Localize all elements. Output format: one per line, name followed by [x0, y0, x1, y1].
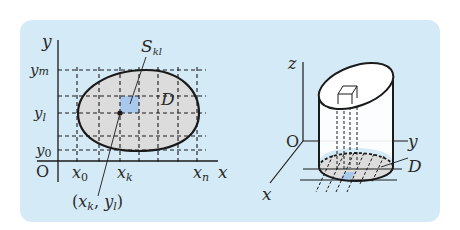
tick-label-ym: ym: [29, 61, 49, 79]
origin-label: O: [36, 162, 49, 181]
tick-label-xn: xn: [193, 163, 209, 184]
tick-label-y0: y0: [35, 141, 51, 160]
x-axis-label: x: [218, 162, 228, 182]
region-d-label-3d: D: [407, 156, 422, 176]
tick-label-x0: x0: [72, 163, 88, 184]
cell-skl: [120, 96, 139, 113]
right-diagram: z O y x D: [262, 54, 422, 204]
tick-label-yl: yl: [33, 104, 46, 124]
y-axis-label-3d: y: [407, 131, 418, 151]
point-label: (xk, yl): [72, 192, 123, 213]
region-d-label: D: [160, 89, 175, 109]
y-axis-label: y: [41, 31, 52, 51]
z-axis-label: z: [287, 54, 297, 73]
cell-skl-label: Skl: [141, 36, 162, 57]
diagram-canvas: y O ym yl y0 x0 xk xn x D Skl (xk, yl): [0, 0, 460, 230]
tick-label-xk: xk: [117, 163, 133, 184]
left-diagram: y O ym yl y0 x0 xk xn x D Skl (xk, yl): [29, 31, 228, 213]
x-axis-label-3d: x: [262, 184, 272, 204]
origin-label-3d: O: [286, 132, 299, 151]
